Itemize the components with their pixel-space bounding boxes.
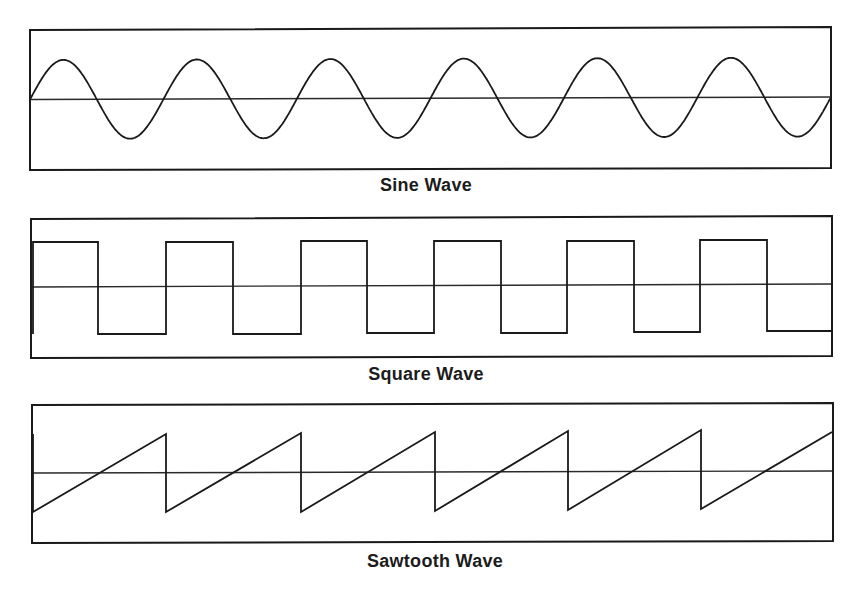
waveform-diagram — [0, 0, 859, 595]
square-axis — [32, 284, 831, 287]
square-wave-title: Square Wave — [368, 364, 484, 385]
sine-trace — [30, 58, 831, 139]
square-panel — [31, 216, 832, 358]
sawtooth-panel — [32, 403, 833, 543]
sawtooth-axis — [33, 471, 832, 473]
sine-panel — [30, 27, 831, 170]
sawtooth-wave-title: Sawtooth Wave — [367, 551, 503, 572]
sine-wave-title: Sine Wave — [380, 175, 472, 196]
